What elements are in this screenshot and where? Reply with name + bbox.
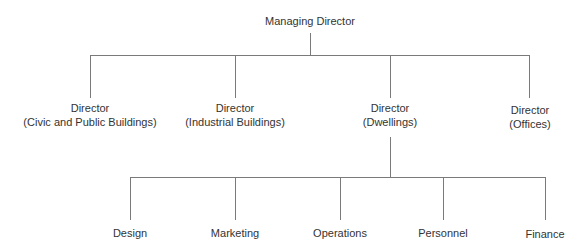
- node-label: Finance: [525, 228, 564, 240]
- node-title: Director: [509, 103, 550, 117]
- connector-d2: [235, 55, 236, 98]
- node-label: Marketing: [211, 227, 259, 239]
- connector-d4: [529, 55, 530, 98]
- connector-root-down: [310, 33, 311, 55]
- node-director-dwellings: Director (Dwellings): [363, 101, 417, 129]
- node-label: Operations: [313, 227, 367, 239]
- node-label: Personnel: [418, 227, 468, 239]
- node-subtitle: (Dwellings): [363, 115, 417, 129]
- node-director-offices: Director (Offices): [509, 103, 550, 131]
- node-subtitle: (Civic and Public Buildings): [23, 115, 156, 129]
- node-marketing: Marketing: [211, 226, 259, 240]
- connector-marketing: [235, 177, 236, 220]
- node-title: Director: [363, 101, 417, 115]
- node-subtitle: (Offices): [509, 117, 550, 131]
- org-chart: Managing Director Director (Civic and Pu…: [0, 0, 588, 252]
- connector-operations: [340, 177, 341, 220]
- node-director-industrial: Director (Industrial Buildings): [185, 101, 285, 129]
- connector-level1-bar: [90, 55, 530, 56]
- node-director-civic: Director (Civic and Public Buildings): [23, 101, 156, 129]
- node-managing-director: Managing Director: [265, 14, 355, 28]
- node-personnel: Personnel: [418, 226, 468, 240]
- node-label: Managing Director: [265, 15, 355, 27]
- node-title: Director: [185, 101, 285, 115]
- node-label: Design: [113, 227, 147, 239]
- connector-level2-bar: [130, 177, 546, 178]
- node-design: Design: [113, 226, 147, 240]
- connector-personnel: [443, 177, 444, 220]
- connector-dwellings-down: [390, 137, 391, 178]
- connector-finance: [545, 177, 546, 220]
- node-subtitle: (Industrial Buildings): [185, 115, 285, 129]
- connector-d1: [90, 55, 91, 98]
- connector-d3: [390, 55, 391, 98]
- node-finance: Finance: [525, 227, 564, 241]
- connector-design: [130, 177, 131, 220]
- node-title: Director: [23, 101, 156, 115]
- node-operations: Operations: [313, 226, 367, 240]
